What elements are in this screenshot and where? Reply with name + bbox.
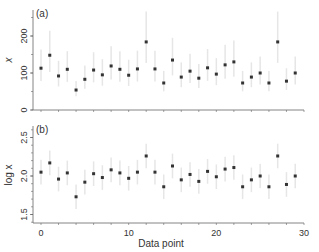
data-point xyxy=(136,67,139,70)
x-axis-label: Data point xyxy=(138,238,184,249)
y-tick-label: 0 xyxy=(19,107,29,112)
x-tick-label: 20 xyxy=(211,228,221,238)
data-point xyxy=(259,72,262,75)
data-point xyxy=(57,178,60,181)
data-point xyxy=(92,69,95,72)
panel-b: 1.52.02.5 0102030 (b) log x Data point xyxy=(3,124,309,249)
data-point xyxy=(40,67,43,70)
x-tick-label: 30 xyxy=(299,228,309,238)
data-point xyxy=(75,89,78,92)
data-point xyxy=(206,66,209,69)
panel-a-label: (a) xyxy=(36,8,48,19)
data-point xyxy=(127,74,130,77)
data-point xyxy=(48,54,51,57)
data-point xyxy=(241,185,244,188)
data-point xyxy=(285,183,288,186)
panel-a: 0100200 (a) x xyxy=(3,8,304,113)
data-point xyxy=(197,180,200,183)
data-point xyxy=(206,170,209,173)
data-point xyxy=(110,168,113,171)
data-point xyxy=(171,59,174,62)
y-tick-label: 200 xyxy=(19,28,29,43)
y-tick-label: 2.0 xyxy=(19,170,29,183)
data-point xyxy=(83,78,86,81)
data-point xyxy=(189,70,192,73)
data-point xyxy=(136,171,139,174)
data-point xyxy=(162,81,165,84)
data-point xyxy=(189,173,192,176)
data-point xyxy=(259,175,262,178)
data-point xyxy=(241,81,244,84)
data-point xyxy=(153,67,156,70)
data-point xyxy=(232,60,235,63)
panel-b-y-label: log x xyxy=(3,164,14,185)
data-point xyxy=(145,154,148,157)
data-point xyxy=(118,68,121,71)
panel-a-y-label: x xyxy=(3,57,14,64)
data-point xyxy=(267,185,270,188)
data-point xyxy=(118,171,121,174)
y-tick-label: 1.5 xyxy=(19,208,29,221)
data-point xyxy=(145,40,148,43)
panel-a-points xyxy=(40,40,297,91)
panel-b-x-ticks: 0102030 xyxy=(38,223,309,238)
data-point xyxy=(215,73,218,76)
data-point xyxy=(66,68,69,71)
data-point xyxy=(57,74,60,77)
data-point xyxy=(162,185,165,188)
y-tick-label: 2.5 xyxy=(19,131,29,144)
data-point xyxy=(276,40,279,43)
panel-b-error-bars xyxy=(41,144,295,209)
data-point xyxy=(215,175,218,178)
data-point xyxy=(267,81,270,84)
panel-b-y-ticks: 1.52.02.5 xyxy=(19,130,33,222)
data-point xyxy=(250,178,253,181)
data-point xyxy=(110,64,113,67)
data-point xyxy=(180,76,183,79)
chart: 0100200 (a) x 1.52.02.5 0102030 (b) log … xyxy=(0,0,319,252)
panel-a-y-ticks: 0100200 xyxy=(19,18,33,113)
panel-b-points xyxy=(40,154,297,198)
data-point xyxy=(48,161,51,164)
data-point xyxy=(40,171,43,174)
data-point xyxy=(92,172,95,175)
data-point xyxy=(285,80,288,83)
panel-b-label: (b) xyxy=(36,124,48,135)
data-point xyxy=(66,171,69,174)
data-point xyxy=(180,178,183,181)
data-point xyxy=(101,73,104,76)
x-tick-label: 0 xyxy=(38,228,43,238)
data-point xyxy=(75,195,78,198)
data-point xyxy=(197,77,200,80)
data-point xyxy=(276,154,279,157)
y-tick-label: 100 xyxy=(19,65,29,80)
data-point xyxy=(250,76,253,79)
data-point xyxy=(224,168,227,171)
data-point xyxy=(153,171,156,174)
x-tick-label: 10 xyxy=(124,228,134,238)
data-point xyxy=(171,164,174,167)
data-point xyxy=(232,166,235,169)
data-point xyxy=(294,72,297,75)
data-point xyxy=(294,175,297,178)
data-point xyxy=(127,177,130,180)
data-point xyxy=(101,176,104,179)
data-point xyxy=(83,181,86,184)
panel-a-error-bars xyxy=(41,12,295,97)
data-point xyxy=(224,63,227,66)
